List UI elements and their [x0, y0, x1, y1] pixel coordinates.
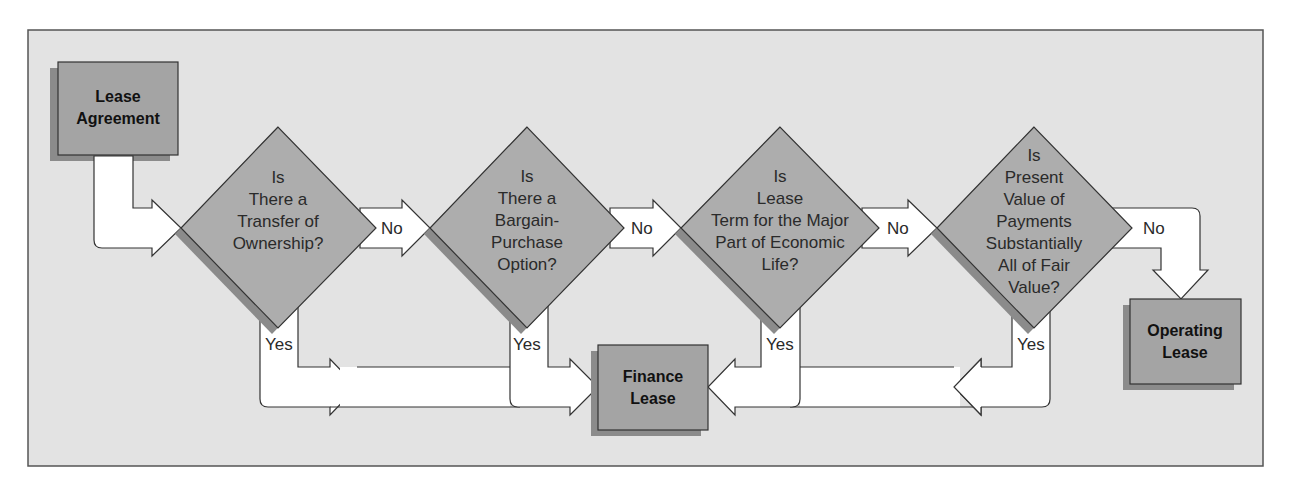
decision-4-line: Substantially [986, 233, 1082, 255]
no-label-3: No [887, 219, 909, 239]
finance-lease-line2: Lease [623, 388, 683, 410]
decision-4-label: Is Present Value of Payments Substantial… [986, 145, 1082, 299]
finance-lease-label: Finance Lease [623, 366, 683, 410]
decision-2-line: Is [491, 166, 563, 188]
decision-3-line: Lease [711, 188, 849, 210]
lease-classification-flowchart [0, 0, 1291, 490]
yes-label-4: Yes [1017, 335, 1045, 355]
decision-3-line: Part of Economic [711, 232, 849, 254]
decision-1-line: There a [233, 189, 324, 211]
operating-lease-label: Operating Lease [1147, 320, 1223, 364]
operating-lease-line2: Lease [1147, 342, 1223, 364]
decision-3-line: Life? [711, 254, 849, 276]
decision-2-line: Bargain- [491, 210, 563, 232]
decision-3-line: Is [711, 166, 849, 188]
decision-1-label: Is There a Transfer of Ownership? [233, 167, 324, 255]
operating-lease-line1: Operating [1147, 320, 1223, 342]
yes-label-3: Yes [766, 335, 794, 355]
yes-label-2: Yes [513, 335, 541, 355]
finance-lease-line1: Finance [623, 366, 683, 388]
lease-agreement-line1: Lease [76, 86, 160, 108]
no-label-2: No [631, 219, 653, 239]
decision-1-line: Ownership? [233, 233, 324, 255]
decision-4-line: Value of [986, 189, 1082, 211]
decision-4-line: Is [986, 145, 1082, 167]
decision-1-line: Transfer of [233, 211, 324, 233]
decision-3-label: Is Lease Term for the Major Part of Econ… [711, 166, 849, 276]
decision-2-line: Purchase [491, 232, 563, 254]
decision-4-line: All of Fair [986, 255, 1082, 277]
decision-4-line: Payments [986, 211, 1082, 233]
lease-agreement-line2: Agreement [76, 108, 160, 130]
decision-2-label: Is There a Bargain- Purchase Option? [491, 166, 563, 276]
yes-label-1: Yes [265, 335, 293, 355]
no-label-1: No [381, 219, 403, 239]
decision-2-line: Option? [491, 254, 563, 276]
lease-agreement-label: Lease Agreement [76, 86, 160, 130]
decision-3-line: Term for the Major [711, 210, 849, 232]
decision-2-line: There a [491, 188, 563, 210]
decision-4-line: Value? [986, 277, 1082, 299]
no-label-4: No [1143, 219, 1165, 239]
yes-arrow-1-shaft [340, 367, 510, 407]
decision-1-line: Is [233, 167, 324, 189]
decision-4-line: Present [986, 167, 1082, 189]
